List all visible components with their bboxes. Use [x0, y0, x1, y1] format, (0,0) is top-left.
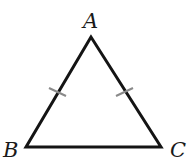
vertex-label-c: C — [170, 138, 186, 162]
triangle-diagram: A B C — [0, 0, 194, 166]
vertex-label-a: A — [81, 9, 98, 33]
triangle-abc — [26, 37, 161, 147]
vertex-label-b: B — [2, 138, 18, 162]
